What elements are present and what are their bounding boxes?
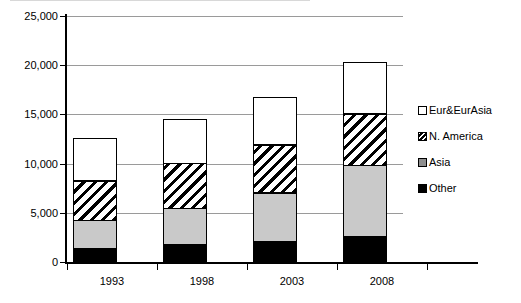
bar-segment-other-2003[interactable] [253, 242, 297, 262]
bar-segment-n-america-1993[interactable] [73, 181, 117, 221]
y-tick-mark-20000 [60, 65, 66, 66]
y-tick-label-25000: 25,000 [4, 11, 58, 22]
stacked-bar-chart: 25,000 20,000 15,000 10,000 5,000 0 1993… [0, 0, 521, 303]
y-tick-label-15000: 15,000 [4, 109, 58, 120]
x-tick-label-2003: 2003 [257, 275, 327, 287]
y-axis-tick-labels: 25,000 20,000 15,000 10,000 5,000 0 [0, 0, 58, 303]
bar-segment-n-america-1998[interactable] [163, 163, 207, 209]
y-tick-label-5000: 5,000 [4, 208, 58, 219]
x-tick-mark-0 [67, 264, 68, 270]
y-tick-mark-0 [60, 262, 66, 263]
bar-segment-eur-eurasia-2008[interactable] [343, 62, 387, 114]
gridline-25000 [67, 16, 403, 17]
x-tick-mark-3 [337, 264, 338, 270]
y-tick-mark-25000 [60, 16, 66, 17]
bar-segment-other-2008[interactable] [343, 237, 387, 262]
bar-segment-eur-eurasia-2003[interactable] [253, 97, 297, 145]
y-tick-mark-5000 [60, 213, 66, 214]
legend-item-n-america[interactable]: N. America [418, 129, 483, 143]
legend-swatch-other-icon [418, 184, 427, 193]
legend-label-other: Other [429, 182, 457, 194]
legend-label-n-america: N. America [429, 130, 483, 142]
x-axis-line [66, 262, 478, 264]
bar-segment-n-america-2003[interactable] [253, 145, 297, 193]
x-tick-label-2008: 2008 [347, 275, 417, 287]
legend-swatch-eur-eurasia-icon [418, 106, 427, 115]
legend-item-other[interactable]: Other [418, 181, 457, 195]
bar-segment-eur-eurasia-1998[interactable] [163, 119, 207, 164]
x-tick-label-1993: 1993 [77, 275, 147, 287]
bar-segment-asia-1993[interactable] [73, 220, 117, 249]
legend-label-asia: Asia [429, 156, 450, 168]
bar-segment-asia-1998[interactable] [163, 208, 207, 245]
bar-segment-other-1993[interactable] [73, 249, 117, 262]
legend-swatch-n-america-icon [418, 132, 427, 141]
bar-segment-eur-eurasia-1993[interactable] [73, 138, 117, 181]
x-tick-label-1998: 1998 [167, 275, 237, 287]
plot-area [67, 16, 403, 262]
x-tick-mark-1 [157, 264, 158, 270]
y-tick-mark-10000 [60, 164, 66, 165]
legend-item-eur-eurasia[interactable]: Eur&EurAsia [418, 103, 492, 117]
x-tick-mark-4 [427, 264, 428, 270]
legend-item-asia[interactable]: Asia [418, 155, 450, 169]
x-tick-mark-2 [247, 264, 248, 270]
bar-segment-n-america-2008[interactable] [343, 114, 387, 166]
y-tick-label-0: 0 [4, 257, 58, 268]
y-tick-label-20000: 20,000 [4, 60, 58, 71]
legend-swatch-asia-icon [418, 158, 427, 167]
y-axis-line [65, 14, 67, 264]
bar-segment-other-1998[interactable] [163, 245, 207, 262]
y-tick-mark-15000 [60, 114, 66, 115]
bar-segment-asia-2008[interactable] [343, 165, 387, 237]
legend-label-eur-eurasia: Eur&EurAsia [429, 104, 492, 116]
y-tick-label-10000: 10,000 [4, 159, 58, 170]
bar-segment-asia-2003[interactable] [253, 193, 297, 242]
